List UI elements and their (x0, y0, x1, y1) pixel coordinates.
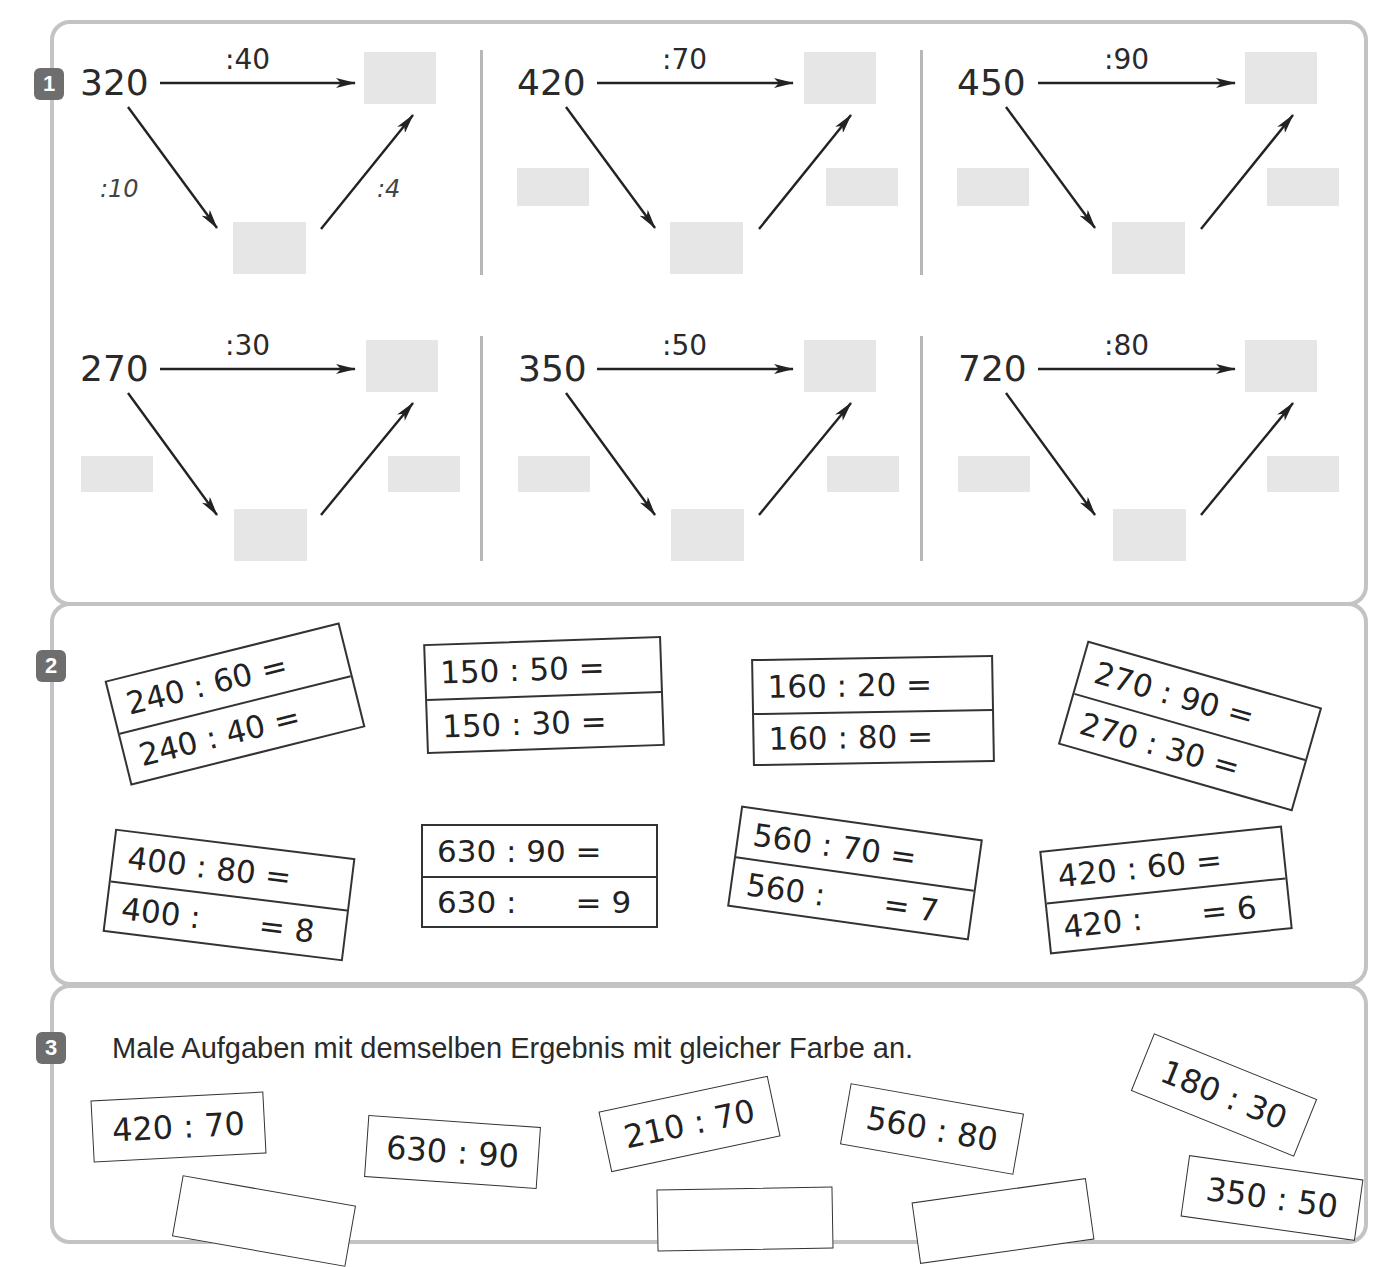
equation-line[interactable]: 160 : 80 = (754, 708, 993, 764)
equation-card: 630 : 90 = 630 : = 9 (421, 824, 658, 928)
answer-box-top[interactable] (1245, 52, 1317, 104)
top-operation: :70 (662, 43, 707, 76)
start-number: 270 (80, 348, 149, 389)
top-operation: :90 (1104, 43, 1149, 76)
top-operation: :80 (1104, 329, 1149, 362)
equation-line[interactable]: 160 : 20 = (753, 657, 992, 713)
division-tile[interactable]: 630 : 90 (364, 1115, 541, 1189)
answer-box-right-op[interactable] (826, 168, 898, 206)
start-number: 450 (957, 62, 1026, 103)
answer-box-left-op[interactable] (957, 168, 1029, 206)
top-operation: :30 (225, 329, 270, 362)
answer-box-right-op[interactable] (388, 456, 460, 492)
instruction-text: Male Aufgaben mit demselben Ergebnis mit… (112, 1032, 913, 1065)
answer-box-bottom[interactable] (233, 222, 306, 274)
equation-line[interactable]: 630 : = 9 (423, 876, 656, 926)
division-tile[interactable] (656, 1186, 833, 1251)
start-number: 720 (958, 348, 1027, 389)
answer-box-left-op[interactable] (517, 168, 589, 206)
answer-box-right-op[interactable] (827, 456, 899, 492)
answer-box-top[interactable] (804, 340, 876, 392)
answer-box-bottom[interactable] (671, 509, 744, 561)
answer-box-top[interactable] (366, 340, 438, 392)
top-operation: :50 (662, 329, 707, 362)
start-number: 420 (517, 62, 586, 103)
answer-box-left-op[interactable] (958, 456, 1030, 492)
answer-box-right-op[interactable] (1267, 456, 1339, 492)
equation-card: 150 : 50 = 150 : 30 = (423, 636, 665, 754)
equation-line[interactable]: 630 : 90 = (423, 826, 656, 876)
answer-box-left-op[interactable] (518, 456, 590, 492)
right-operation-handwritten: :4 (377, 175, 400, 203)
answer-box-top[interactable] (364, 52, 436, 104)
left-operation-handwritten: :10 (100, 175, 139, 203)
answer-box-bottom[interactable] (1112, 222, 1185, 274)
answer-box-bottom[interactable] (234, 509, 307, 561)
answer-box-bottom[interactable] (1113, 509, 1186, 561)
answer-box-top[interactable] (1245, 340, 1317, 392)
start-number: 350 (518, 348, 587, 389)
answer-box-top[interactable] (804, 52, 876, 104)
top-operation: :40 (225, 43, 270, 76)
answer-box-left-op[interactable] (81, 456, 153, 492)
equation-line[interactable]: 150 : 30 = (427, 691, 663, 752)
start-number: 320 (80, 62, 149, 103)
answer-box-right-op[interactable] (1267, 168, 1339, 206)
equation-card: 160 : 20 = 160 : 80 = (751, 655, 995, 766)
equation-line[interactable]: 150 : 50 = (425, 638, 661, 699)
answer-box-bottom[interactable] (670, 222, 743, 274)
exercise-2-badge: 2 (36, 650, 66, 682)
exercise-3-badge: 3 (36, 1032, 66, 1064)
division-tile[interactable]: 420 : 70 (90, 1092, 266, 1163)
